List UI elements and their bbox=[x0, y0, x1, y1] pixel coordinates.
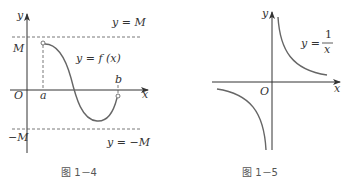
numerator: 1 bbox=[325, 28, 332, 41]
x-axis-label: x bbox=[334, 82, 341, 95]
line-bottom-label: y = −M bbox=[106, 136, 151, 149]
figure-caption: 图 1－4 bbox=[61, 167, 97, 178]
open-point-a bbox=[41, 41, 45, 45]
function-label: y = f (x) bbox=[75, 52, 121, 65]
function-label: y = 1 x bbox=[300, 28, 333, 56]
line-top-label: y = M bbox=[111, 16, 146, 29]
diagram-canvas: y x O M −M a b y = M y = −M y = f (x) 图 … bbox=[0, 0, 350, 188]
denominator: x bbox=[324, 43, 331, 56]
origin-label: O bbox=[14, 89, 23, 102]
x-axis-label: x bbox=[142, 88, 149, 101]
y-axis-label: y bbox=[261, 7, 269, 20]
open-point-b bbox=[116, 94, 120, 98]
origin-label: O bbox=[260, 85, 269, 98]
svg-text:y =: y = bbox=[300, 37, 320, 50]
b-label: b bbox=[115, 73, 122, 86]
hyperbola-branch-negative bbox=[217, 89, 266, 150]
M-label: M bbox=[12, 42, 25, 55]
a-label: a bbox=[40, 89, 47, 102]
neg-M-label: −M bbox=[8, 131, 29, 144]
y-axis-label: y bbox=[16, 9, 24, 22]
figure-1-4: y x O M −M a b y = M y = −M y = f (x) 图 … bbox=[8, 9, 151, 178]
figure-1-5: y x O y = 1 x 图 1－5 bbox=[212, 7, 341, 178]
figure-caption: 图 1－5 bbox=[242, 167, 278, 178]
